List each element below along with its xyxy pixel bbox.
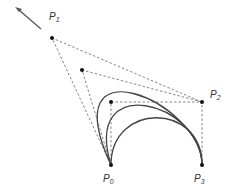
bezier-diagram: [0, 0, 230, 190]
label-p2: P2: [210, 90, 221, 101]
label-p0: P0: [103, 174, 114, 185]
point-p0[interactable]: [109, 163, 113, 167]
control-polygon-1: [52, 38, 202, 165]
intermediate-point-1[interactable]: [80, 68, 84, 72]
point-p3[interactable]: [200, 163, 204, 167]
bezier-curve-3: [111, 118, 202, 165]
intermediate-point-2[interactable]: [109, 100, 113, 104]
label-p3: P3: [194, 174, 205, 185]
control-polygons: [52, 38, 202, 165]
control-polygon-3: [111, 102, 202, 165]
label-p1: P1: [49, 12, 60, 23]
control-points: [50, 36, 204, 167]
label-p0-name: P: [103, 173, 110, 184]
label-p1-sub: 1: [56, 16, 60, 23]
drag-arrow: [15, 7, 41, 29]
label-p0-sub: 0: [110, 178, 114, 185]
label-p2-name: P: [210, 89, 217, 100]
label-p3-sub: 3: [201, 178, 205, 185]
bezier-curves: [97, 92, 202, 165]
label-p1-name: P: [49, 11, 56, 22]
control-polygon-2: [82, 70, 202, 165]
point-p2[interactable]: [200, 100, 204, 104]
label-p3-name: P: [194, 173, 201, 184]
point-p1[interactable]: [50, 36, 54, 40]
label-p2-sub: 2: [217, 94, 221, 101]
